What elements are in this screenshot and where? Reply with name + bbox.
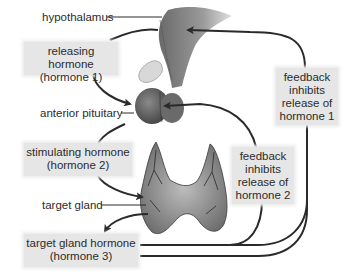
feedback2-line1: feedback bbox=[232, 150, 294, 163]
feedback1-line1: feedback bbox=[276, 71, 338, 84]
stimulating-hormone-box: stimulating hormone (hormone 2) bbox=[24, 143, 132, 176]
feedback1-line2: inhibits bbox=[276, 84, 338, 97]
target-gland-hormone-line1: target gland hormone bbox=[24, 237, 138, 250]
feedback-hormone2-box: feedback inhibits release of hormone 2 bbox=[232, 147, 294, 204]
releasing-hormone-box: releasing hormone (hormone 1) bbox=[24, 42, 118, 75]
feedback1-line4: hormone 1 bbox=[276, 110, 338, 123]
feedback1-to-hypothalamus-arrow bbox=[188, 30, 305, 68]
target-gland-hormone-line2: (hormone 3) bbox=[24, 250, 138, 263]
feedback2-line3: release of bbox=[232, 176, 294, 189]
feedback2-line2: inhibits bbox=[232, 163, 294, 176]
releasing-hormone-line1: releasing hormone bbox=[24, 45, 118, 71]
anterior-pituitary-label: anterior pituitary bbox=[40, 107, 122, 120]
target-gland-illustration bbox=[140, 142, 227, 234]
feedback-hormone1-box: feedback inhibits release of hormone 1 bbox=[276, 68, 338, 125]
feedback2-line4: hormone 2 bbox=[232, 189, 294, 202]
stimulating-to-gland-arrow bbox=[98, 176, 142, 197]
target-gland-label: target gland bbox=[42, 199, 103, 212]
releasing-hormone-line2: (hormone 1) bbox=[24, 71, 118, 84]
stimulating-hormone-line1: stimulating hormone bbox=[24, 146, 132, 159]
hypothalamus-label: hypothalamus bbox=[42, 11, 114, 24]
target-gland-hormone-box: target gland hormone (hormone 3) bbox=[24, 234, 138, 267]
gland-to-target-hormone-arrow bbox=[105, 214, 148, 231]
feedback1-line3: release of bbox=[276, 97, 338, 110]
hormone-feedback-diagram: hypothalamus anterior pituitary target g… bbox=[0, 0, 351, 279]
hypothalamus-illustration bbox=[139, 7, 232, 88]
hypothalamus-to-releasing-curve bbox=[110, 29, 158, 40]
stimulating-hormone-line2: (hormone 2) bbox=[24, 159, 132, 172]
